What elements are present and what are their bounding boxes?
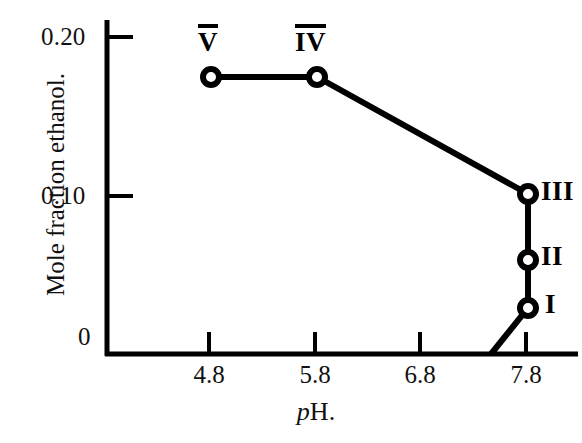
x-axis-title-h: H. — [310, 397, 335, 426]
point-label-IV-text: IV — [295, 24, 326, 56]
point-label-III: III — [541, 178, 574, 205]
point-label-V: V — [198, 24, 218, 56]
x-tick-label-5.8: 5.8 — [280, 362, 350, 387]
x-tick-label-4.8: 4.8 — [174, 362, 244, 387]
y-tick-label-0: 0 — [78, 324, 91, 349]
point-label-II: II — [541, 243, 563, 270]
y-axis-ticks — [107, 37, 133, 196]
point-label-V-text: V — [198, 24, 218, 56]
axis-lines — [105, 20, 578, 356]
x-axis-title: pH. — [246, 399, 386, 425]
x-axis-title-p: p — [297, 397, 310, 426]
x-tick-label-6.8: 6.8 — [385, 362, 455, 387]
chart-figure: 0.20 0.10 0 4.8 5.8 6.8 7.8 pH. Mole fra… — [0, 0, 582, 443]
point-label-I: I — [545, 291, 556, 318]
x-axis-ticks — [209, 332, 526, 354]
x-tick-label-7.8: 7.8 — [491, 362, 561, 387]
point-label-IV: IV — [295, 24, 326, 56]
y-axis-title: Mole fraction ethanol. — [43, 20, 68, 350]
data-line — [211, 77, 528, 354]
